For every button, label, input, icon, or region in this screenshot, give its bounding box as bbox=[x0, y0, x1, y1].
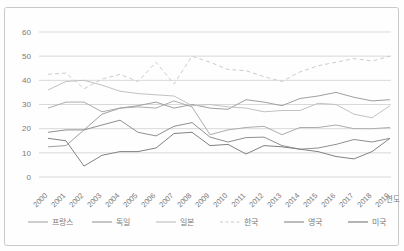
x-tick-label: 2007 bbox=[157, 191, 175, 209]
x-tick-label: 2003 bbox=[85, 191, 103, 209]
legend-label-독일: 독일 bbox=[116, 218, 130, 227]
legend-item-미국: 미국 bbox=[348, 218, 386, 227]
legend-label-일본: 일본 bbox=[180, 218, 194, 227]
legend-label-프랑스: 프랑스 bbox=[52, 217, 73, 227]
line-chart: 0102030405060200020012002200320042005200… bbox=[0, 0, 404, 251]
x-tick-label: 2015 bbox=[301, 191, 319, 209]
x-tick-label: 2012 bbox=[247, 191, 265, 209]
legend-item-프랑스: 프랑스 bbox=[28, 217, 73, 227]
x-tick-label: 2006 bbox=[139, 191, 157, 209]
legend-item-영국: 영국 bbox=[284, 217, 322, 227]
legend-item-독일: 독일 bbox=[92, 218, 130, 227]
figure-border bbox=[5, 8, 399, 246]
x-tick-label: 2017 bbox=[337, 191, 355, 209]
legend-label-한국: 한국 bbox=[244, 218, 258, 227]
y-tick-label: 10 bbox=[22, 149, 31, 158]
y-tick-label: 60 bbox=[22, 28, 31, 37]
legend-item-일본: 일본 bbox=[156, 218, 194, 227]
line-chart-figure: 0102030405060200020012002200320042005200… bbox=[0, 0, 404, 251]
y-tick-label: 30 bbox=[22, 100, 31, 109]
x-tick-label: 2016 bbox=[319, 191, 337, 209]
x-tick-label: 2001 bbox=[49, 191, 67, 209]
x-tick-label: 2013 bbox=[265, 191, 283, 209]
x-tick-label: 2004 bbox=[103, 191, 121, 209]
x-tick-label: 2002 bbox=[67, 191, 85, 209]
x-tick-label: 2008 bbox=[175, 191, 193, 209]
legend-label-영국: 영국 bbox=[308, 217, 322, 227]
y-tick-label: 20 bbox=[22, 124, 31, 133]
y-tick-label: 50 bbox=[22, 52, 31, 61]
series-line-미국 bbox=[48, 132, 390, 166]
legend-item-한국: 한국 bbox=[220, 218, 258, 227]
series-line-한국 bbox=[48, 56, 390, 89]
x-tick-label: 2010 bbox=[211, 191, 229, 209]
x-tick-label: 2005 bbox=[121, 191, 139, 209]
series-line-독일 bbox=[48, 92, 390, 146]
y-tick-label: 40 bbox=[22, 76, 31, 85]
x-tick-label: 2009 bbox=[193, 191, 211, 209]
x-tick-label: 2014 bbox=[283, 191, 301, 209]
x-tick-label: 2011 bbox=[230, 191, 248, 209]
x-axis-title: 연도 bbox=[386, 195, 400, 204]
x-tick-label: 2018 bbox=[355, 191, 373, 209]
legend-label-미국: 미국 bbox=[372, 218, 386, 227]
y-tick-label: 0 bbox=[27, 173, 32, 182]
x-tick-label: 2000 bbox=[31, 191, 49, 209]
series-line-일본 bbox=[48, 80, 390, 118]
